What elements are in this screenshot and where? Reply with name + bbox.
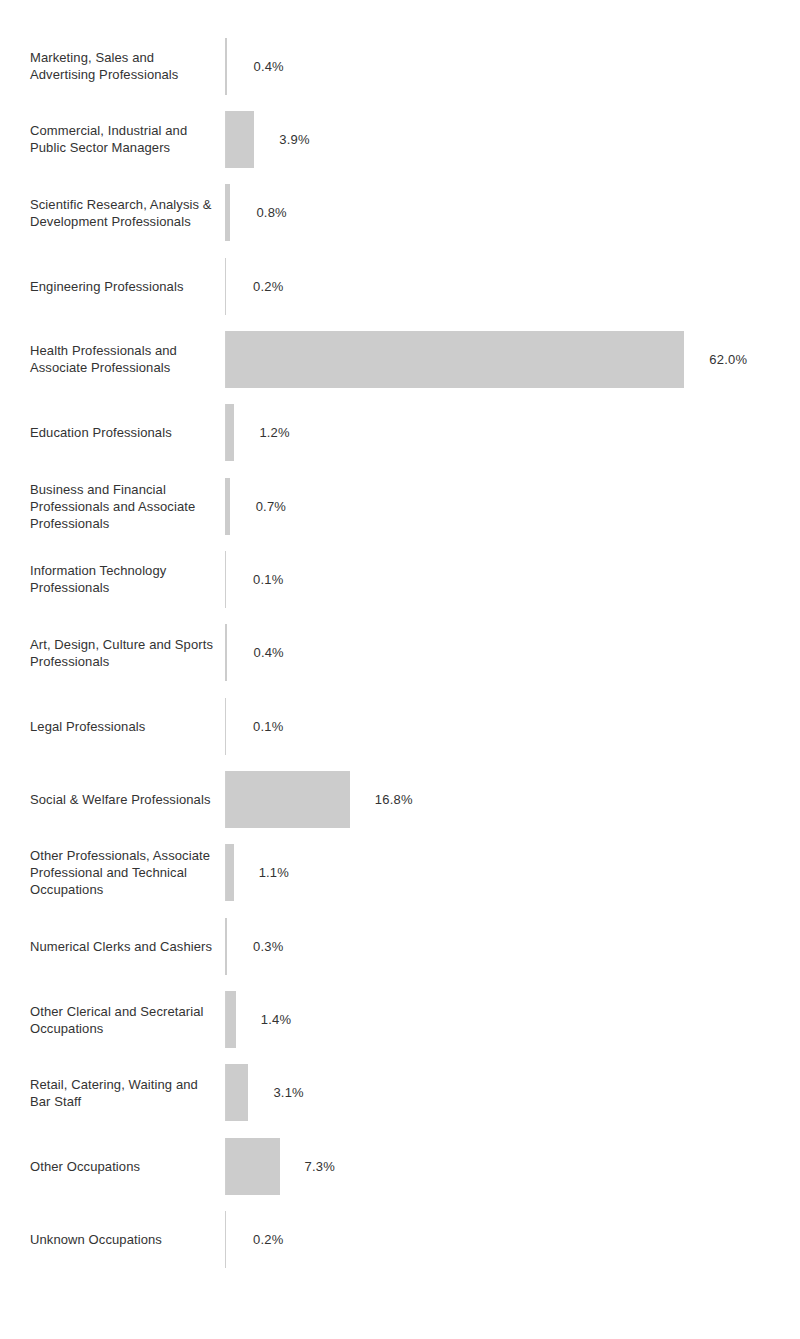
chart-plot-area: Marketing, Sales and Advertising Profess… [0, 0, 800, 1339]
category-label: Legal Professionals [30, 718, 215, 735]
axis-tick [225, 551, 227, 608]
category-label: Education Professionals [30, 424, 215, 441]
bar [226, 404, 235, 461]
value-label: 0.4% [253, 644, 283, 661]
value-label: 1.2% [259, 424, 289, 441]
category-label: Numerical Clerks and Cashiers [30, 938, 215, 955]
value-label: 0.7% [256, 498, 286, 515]
category-label: Art, Design, Culture and Sports Professi… [30, 636, 215, 670]
bar [225, 624, 228, 681]
bar [226, 844, 234, 901]
category-label: Social & Welfare Professionals [30, 791, 215, 808]
value-label: 62.0% [709, 351, 747, 368]
category-label: Other Occupations [30, 1158, 215, 1175]
axis-tick [225, 258, 227, 315]
bar [226, 1064, 249, 1121]
value-label: 1.1% [259, 864, 289, 881]
value-label: 0.4% [253, 58, 283, 75]
value-label: 0.2% [253, 1231, 283, 1248]
horizontal-bar-chart: Marketing, Sales and Advertising Profess… [0, 0, 800, 1339]
value-label: 16.8% [375, 791, 413, 808]
value-label: 0.8% [256, 204, 286, 221]
category-label: Other Professionals, Associate Professio… [30, 847, 215, 898]
category-label: Other Clerical and Secretarial Occupatio… [30, 1003, 215, 1037]
category-label: Scientific Research, Analysis & Developm… [30, 196, 215, 230]
value-label: 1.4% [261, 1011, 291, 1028]
bar [225, 184, 231, 241]
category-label: Health Professionals and Associate Profe… [30, 342, 215, 376]
value-label: 7.3% [305, 1158, 335, 1175]
category-label: Unknown Occupations [30, 1231, 215, 1248]
category-label: Information Technology Professionals [30, 562, 215, 596]
bar [226, 1138, 280, 1195]
bar [225, 478, 230, 535]
bar [225, 918, 228, 975]
category-label: Business and Financial Professionals and… [30, 481, 215, 532]
axis-tick [225, 698, 227, 755]
value-label: 0.1% [253, 571, 283, 588]
bar [225, 38, 228, 95]
category-label: Marketing, Sales and Advertising Profess… [30, 49, 215, 83]
category-label: Engineering Professionals [30, 278, 215, 295]
value-label: 0.3% [253, 938, 283, 955]
value-label: 3.1% [273, 1084, 303, 1101]
bar [226, 991, 236, 1048]
category-label: Commercial, Industrial and Public Sector… [30, 122, 215, 156]
value-label: 0.2% [253, 278, 283, 295]
value-label: 0.1% [253, 718, 283, 735]
bar [226, 111, 255, 168]
axis-tick [225, 1211, 227, 1268]
value-label: 3.9% [279, 131, 309, 148]
category-label: Retail, Catering, Waiting and Bar Staff [30, 1076, 215, 1110]
bar [226, 771, 350, 828]
bar [226, 331, 685, 388]
